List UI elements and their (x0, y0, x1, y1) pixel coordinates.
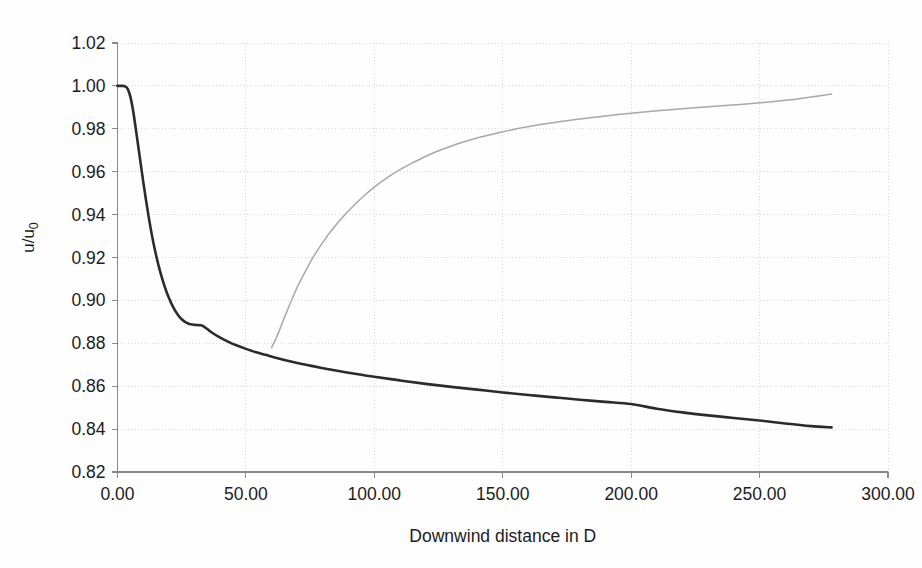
line-chart: 0.0050.00100.00150.00200.00250.00300.00 … (0, 0, 922, 568)
series-line-wake-recovery-curve (272, 94, 832, 348)
y-tick-label: 0.92 (71, 248, 105, 268)
x-tick-label: 100.00 (348, 484, 402, 504)
x-tick-label: 200.00 (604, 484, 658, 504)
x-tick-label: 150.00 (476, 484, 530, 504)
series-line-velocity-deficit-curve (118, 86, 832, 428)
y-axis-title-text: u/u0 (19, 222, 41, 253)
y-tick-labels: 0.820.840.860.880.900.920.940.960.981.00… (71, 33, 105, 482)
x-tick-label: 250.00 (733, 484, 787, 504)
x-tick-labels: 0.0050.00100.00150.00200.00250.00300.00 (100, 484, 915, 504)
chart-figure: 0.0050.00100.00150.00200.00250.00300.00 … (0, 0, 922, 568)
x-tick-label: 0.00 (100, 484, 134, 504)
y-axis-title: u/u0 (19, 222, 41, 253)
y-tick-label: 0.86 (71, 376, 105, 396)
x-tick-label: 50.00 (224, 484, 268, 504)
tick-marks (112, 43, 889, 478)
y-tick-label: 1.00 (71, 76, 105, 96)
y-tick-label: 0.82 (71, 462, 105, 482)
y-tick-label: 0.90 (71, 290, 105, 310)
gridlines (118, 43, 889, 472)
y-tick-label: 0.88 (71, 333, 105, 353)
y-tick-label: 0.98 (71, 119, 105, 139)
y-tick-label: 1.02 (71, 33, 105, 53)
x-tick-label: 300.00 (861, 484, 915, 504)
x-axis-title-text: Downwind distance in D (409, 526, 596, 546)
x-axis-title: Downwind distance in D (409, 526, 596, 546)
y-tick-label: 0.96 (71, 162, 105, 182)
y-tick-label: 0.84 (71, 419, 105, 439)
data-series (118, 86, 832, 428)
y-tick-label: 0.94 (71, 205, 105, 225)
